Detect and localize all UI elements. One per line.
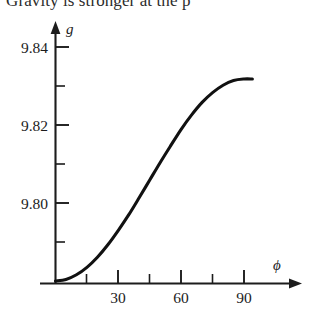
- y-axis-arrowhead: [51, 21, 61, 34]
- gravity-curve: [56, 79, 253, 281]
- x-tick-label-30: 30: [110, 289, 126, 306]
- x-axis-symbol-label: ϕ: [273, 257, 281, 273]
- gravity-latitude-figure: Gravity is stronger at the p: [0, 0, 311, 311]
- y-axis: [51, 21, 61, 284]
- x-tick-label-60: 60: [173, 289, 189, 306]
- x-axis-arrowhead: [289, 279, 302, 289]
- y-tick-label-984: 9.84: [21, 39, 48, 56]
- y-tick-label-982: 9.82: [21, 117, 48, 134]
- x-tick-label-90: 90: [236, 289, 252, 306]
- y-tick-label-980: 9.80: [21, 195, 48, 212]
- y-axis-symbol-label: g: [66, 21, 74, 37]
- x-axis-minor-ticks: [87, 274, 213, 284]
- x-axis-major-ticks: [118, 270, 244, 284]
- x-axis: [40, 279, 302, 289]
- y-axis-major-ticks: [56, 47, 70, 203]
- y-axis-minor-ticks: [56, 86, 66, 242]
- plot-area: 9.84 9.82 9.80 30 60 90 g ϕ: [0, 0, 311, 311]
